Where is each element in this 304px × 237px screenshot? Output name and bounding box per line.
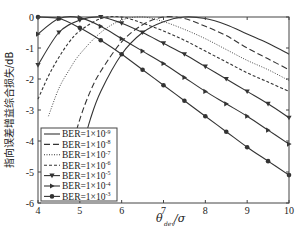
triangle-right-marker-icon: [141, 49, 146, 54]
circle-marker-icon: [78, 26, 83, 31]
y-tick-label: -3: [26, 105, 34, 116]
x-tick-label: 5: [77, 205, 82, 216]
x-tick-label: 10: [284, 205, 294, 216]
circle-marker-icon: [161, 83, 166, 88]
legend: BER=1×10-9BER=1×10-8BER=1×10-7BER=1×10-6…: [41, 128, 117, 202]
legend-label: BER=1×10-3: [62, 191, 110, 202]
circle-marker-icon: [182, 98, 187, 103]
y-tick-label: -6: [26, 198, 34, 209]
circle-marker-icon: [50, 194, 55, 199]
triangle-right-marker-icon: [99, 24, 104, 29]
legend-label: BER=1×10-7: [62, 150, 110, 161]
triangle-down-marker-icon: [182, 52, 187, 57]
line-chart: 456789100-1-2-3-4-5-6 指向误差增益综合损失/dB θ de…: [0, 0, 304, 237]
legend-label: BER=1×10-6: [62, 160, 110, 171]
triangle-down-marker-icon: [224, 77, 229, 82]
svg-text:/σ: /σ: [173, 212, 186, 225]
x-tick-label: 6: [119, 205, 124, 216]
circle-marker-icon: [140, 67, 145, 72]
circle-marker-icon: [119, 52, 124, 57]
legend-label: BER=1×10-5: [62, 170, 110, 181]
svg-text:θ: θ: [156, 212, 163, 225]
triangle-right-marker-icon: [224, 101, 229, 106]
series-6: [36, 15, 292, 147]
circle-marker-icon: [98, 38, 103, 43]
legend-label: BER=1×10-8: [62, 139, 110, 150]
circle-marker-icon: [224, 129, 229, 134]
circle-marker-icon: [245, 145, 250, 150]
triangle-down-marker-icon: [161, 41, 166, 46]
y-axis-label: 指向误差增益综合损失/dB: [3, 52, 15, 169]
legend-label: BER=1×10-9: [62, 129, 110, 140]
y-tick-label: -1: [26, 43, 34, 54]
series-line: [38, 17, 289, 118]
triangle-down-marker-icon: [203, 65, 208, 70]
x-axis-label: θ dev /σ: [156, 212, 186, 227]
x-tick-label: 8: [203, 205, 208, 216]
circle-marker-icon: [203, 114, 208, 119]
triangle-down-marker-icon: [245, 89, 250, 94]
x-tick-label: 4: [36, 205, 41, 216]
circle-marker-icon: [266, 159, 271, 164]
y-tick-label: -2: [26, 74, 34, 85]
triangle-down-marker-icon: [265, 102, 270, 107]
y-tick-label: -4: [26, 136, 34, 147]
legend-label: BER=1×10-4: [62, 181, 110, 192]
y-tick-label: 0: [29, 12, 34, 23]
y-tick-label: -5: [26, 167, 34, 178]
x-tick-label: 9: [245, 205, 250, 216]
